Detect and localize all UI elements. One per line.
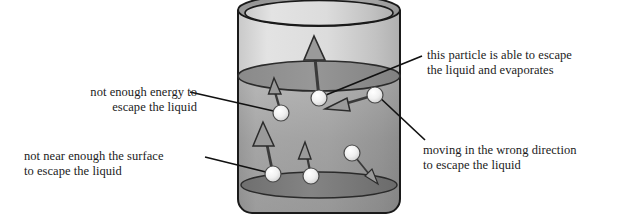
diagram-page: not enough energy to escape the liquid n…: [0, 0, 632, 220]
label-wrong-direction: moving in the wrong direction to escape …: [423, 143, 623, 173]
particle-wrong-direction: [367, 87, 383, 103]
particle-escapes: [311, 90, 327, 106]
label-able-to-escape: this particle is able to escape the liqu…: [427, 48, 623, 78]
particle-bottom-right: [344, 145, 360, 161]
particle-not-enough-energy: [273, 105, 289, 121]
beaker-rim-inner: [245, 1, 393, 26]
particle-bottom-middle: [303, 168, 319, 184]
label-not-enough-energy: not enough energy to escape the liquid: [47, 85, 197, 115]
particle-not-near-surface: [265, 166, 281, 182]
label-not-near-surface: not near enough the surface to escape th…: [24, 149, 206, 179]
